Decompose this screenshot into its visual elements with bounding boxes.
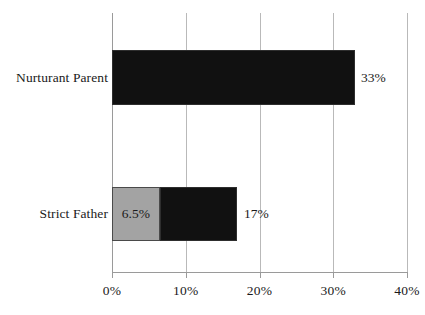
x-tick-label-10pct: 10% [156, 283, 216, 299]
bar-segment-dark-nurturant [112, 50, 355, 105]
gridline-40pct [407, 13, 408, 272]
x-tick-label-40pct: 40% [377, 283, 425, 299]
bar-segment-gray-strict-father: 6.5% [112, 187, 160, 241]
bar-strict-father: 6.5% [112, 187, 237, 241]
bar-chart: 0% 10% 20% 30% 40% Nurturant Parent Stri… [0, 0, 425, 315]
tick-mark-20pct [260, 272, 261, 278]
x-tick-label-30pct: 30% [303, 283, 363, 299]
tick-mark-10pct [186, 272, 187, 278]
x-tick-label-20pct: 20% [230, 283, 290, 299]
category-label-nurturant-parent: Nurturant Parent [0, 70, 108, 86]
bar-segment-label-6-5pct: 6.5% [113, 206, 159, 222]
tick-mark-30pct [333, 272, 334, 278]
bar-nurturant-parent [112, 50, 355, 105]
bar-value-label-nurturant-parent: 33% [361, 70, 386, 86]
bar-value-label-strict-father: 17% [244, 206, 269, 222]
tick-mark-40pct [407, 272, 408, 278]
category-label-strict-father: Strict Father [0, 206, 108, 222]
x-tick-label-0pct: 0% [82, 283, 142, 299]
bar-segment-dark-strict-father [160, 187, 237, 241]
tick-mark-0pct [112, 272, 113, 278]
